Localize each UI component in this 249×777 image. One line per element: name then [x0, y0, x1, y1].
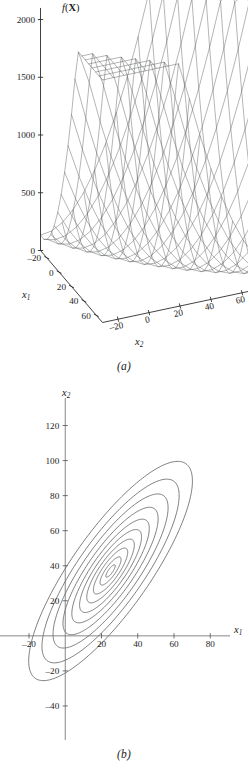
contour-ytick-label: –20 [44, 666, 59, 676]
surface-axes [38, 8, 248, 323]
surface-x1tick-label: 0 [49, 268, 54, 278]
contour-xtick-label: 40 [133, 639, 143, 649]
contour-ring-8 [53, 494, 168, 648]
surface-x1tick-label: –20 [26, 253, 41, 263]
surface-x2tick-label: 0 [144, 314, 151, 325]
surface-x2axis-title: x2 [134, 336, 144, 349]
contour-ring-9 [42, 479, 179, 663]
contour-yaxis-title: x2 [61, 390, 71, 400]
contour-ring-3 [93, 548, 127, 594]
surface-x2tick-label: 20 [173, 307, 184, 319]
surface-mesh [41, 0, 249, 274]
contour-xtick-label: 20 [97, 639, 107, 649]
contour-ytick-label: 20 [50, 596, 60, 606]
surface-x2tick-label: 60 [235, 294, 246, 306]
surface-x1tick-label: 20 [57, 282, 67, 292]
surface-zaxis-title: f(X) [62, 2, 80, 14]
surface-ztick-label: 1000 [17, 130, 36, 140]
surface-plot-svg: 0500100015002000–200204060–2002040608010… [0, 0, 248, 356]
contour-ytick-label: 120 [45, 421, 59, 431]
contour-xtick-label: 80 [206, 639, 216, 649]
contour-ytick-label: 60 [50, 526, 60, 536]
contour-ring-4 [87, 539, 135, 603]
surface-ztick-label: 2000 [17, 15, 36, 25]
surface-ztick-label: 1500 [17, 72, 36, 82]
contour-plot-panel: –2020406080–40–2020406080100120x1x2 [0, 390, 248, 777]
contour-ytick-label: 40 [50, 561, 60, 571]
surface-x2tick-label: –20 [108, 320, 125, 333]
contour-ring-5 [80, 530, 142, 613]
contour-ytick-label: 100 [45, 456, 59, 466]
contour-ytick-label: –40 [44, 701, 59, 711]
contour-axes [0, 398, 230, 740]
contour-plot-svg: –2020406080–40–2020406080100120x1x2 [0, 390, 248, 740]
surface-ztick-label: 500 [21, 188, 35, 198]
surface-x2tick-label: 40 [204, 301, 215, 313]
panel-caption-b: (b) [0, 748, 248, 760]
surface-x1axis-title: x1 [21, 289, 30, 302]
surface-x1tick-label: 60 [82, 311, 92, 321]
figure-page: 0500100015002000–200204060–2002040608010… [0, 0, 248, 777]
contour-ring-2 [100, 557, 121, 585]
surface-x1tick-label: 40 [69, 296, 79, 306]
contour-xtick-label: 60 [169, 639, 179, 649]
contour-xaxis-title: x1 [233, 624, 242, 637]
surface-plot-panel: 0500100015002000–200204060–2002040608010… [0, 0, 248, 390]
panel-caption-a: (a) [0, 360, 248, 372]
contour-ytick-label: 80 [50, 491, 60, 501]
contour-xtick-label: –20 [21, 639, 36, 649]
